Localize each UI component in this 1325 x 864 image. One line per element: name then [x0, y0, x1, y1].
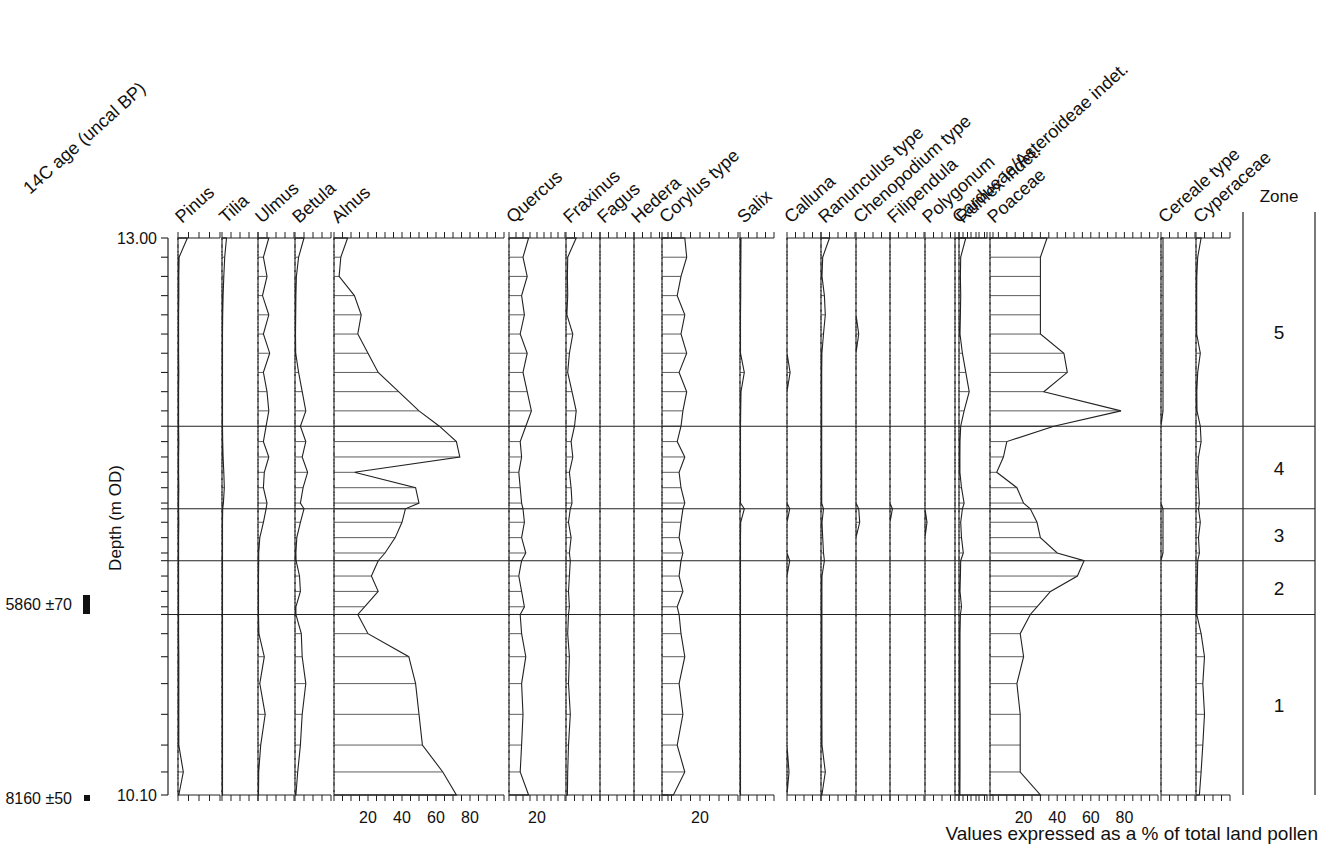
- taxon-silhouette: [1196, 238, 1205, 795]
- zone-label: 4: [1274, 458, 1285, 479]
- axis-tick-label: 20: [359, 809, 377, 826]
- taxon-label: Tilia: [215, 190, 253, 227]
- taxon-column-filipendula: Filipendula: [883, 153, 962, 801]
- taxon-label: Pinus: [171, 182, 218, 227]
- taxon-column-salix: Salix: [733, 186, 775, 801]
- taxon-silhouette: [821, 238, 830, 795]
- taxon-silhouette: [787, 238, 790, 795]
- taxon-silhouette: [222, 238, 227, 795]
- zone-label: 3: [1274, 525, 1285, 546]
- taxon-column-cereale-type: Cereale type: [1154, 144, 1243, 801]
- zone-label: 5: [1274, 322, 1285, 343]
- axis-tick-label: 60: [427, 809, 445, 826]
- c14-dates: 5860 ±708160 ±50: [5, 595, 90, 807]
- y-axis-label: Depth (m OD): [106, 465, 125, 571]
- axis-tick-label: 20: [528, 809, 546, 826]
- taxon-column-pinus: Pinus: [171, 182, 220, 801]
- axis-tick-label: 80: [461, 809, 479, 826]
- c14-marker-bar: [83, 595, 90, 614]
- taxon-silhouette: [509, 238, 531, 795]
- c14-date-label: 5860 ±70: [5, 596, 72, 613]
- taxon-silhouette: [566, 238, 576, 795]
- axis-tick-label: 40: [393, 809, 411, 826]
- pollen-diagram-figure: 13.0010.10Depth (m OD)14C age (uncal BP)…: [0, 0, 1325, 864]
- zone-header-label: Zone: [1260, 187, 1299, 206]
- taxon-column-betula: Betula: [288, 177, 340, 801]
- zone-label: 1: [1274, 695, 1285, 716]
- taxon-column-cyperaceae: Cyperaceae: [1189, 147, 1275, 801]
- taxon-silhouette: [334, 238, 460, 795]
- taxon-silhouette: [959, 238, 969, 795]
- taxon-column-poaceae: 20406080Poaceae: [983, 165, 1158, 826]
- taxon-silhouette: [258, 238, 270, 795]
- taxon-column-calluna: Calluna: [780, 171, 839, 801]
- taxon-silhouette: [178, 238, 187, 795]
- taxon-column-ranunculus-type: Ranunculus type: [814, 122, 927, 801]
- taxon-column-tilia: Tilia: [215, 190, 258, 801]
- depth-top-label: 13.00: [117, 230, 157, 247]
- taxon-silhouette: [856, 238, 860, 795]
- taxon-column-fagus: Fagus: [593, 179, 644, 801]
- left-header-label: 14C age (uncal BP): [19, 78, 149, 198]
- taxon-label: Betula: [288, 177, 340, 227]
- taxon-silhouette: [662, 238, 687, 795]
- taxon-label: Quercus: [502, 167, 566, 227]
- pollen-diagram-svg: 13.0010.10Depth (m OD)14C age (uncal BP)…: [0, 0, 1325, 864]
- c14-marker-square: [84, 795, 90, 801]
- taxon-column-quercus: 20Quercus: [502, 167, 566, 826]
- taxon-column-corylus-type: 20Corylus type: [655, 145, 743, 826]
- taxon-silhouette: [990, 238, 1121, 795]
- axis-tick-label: 20: [691, 809, 709, 826]
- depth-bottom-label: 10.10: [117, 787, 157, 804]
- taxon-column-polygonum: Polygonum: [918, 152, 998, 801]
- zone-column: Zone54321: [1243, 187, 1315, 795]
- zone-label: 2: [1274, 578, 1285, 599]
- taxon-column-hedera: Hedera: [627, 172, 685, 801]
- taxon-silhouette: [295, 238, 308, 795]
- taxon-column-alnus: 20406080Alnus: [327, 182, 504, 826]
- taxon-label: Salix: [733, 186, 775, 227]
- depth-axis: 13.0010.10Depth (m OD): [106, 230, 168, 804]
- taxon-column-rumex-indet-: Rumex indet.: [952, 141, 1044, 801]
- footer-note: Values expressed as a % of total land po…: [946, 823, 1319, 844]
- taxon-label: Cardueae/Asteroideae indet.: [948, 59, 1132, 227]
- taxon-silhouette: [740, 238, 744, 795]
- c14-date-label: 8160 ±50: [5, 790, 72, 807]
- taxon-column-fraxinus: Fraxinus: [559, 166, 624, 801]
